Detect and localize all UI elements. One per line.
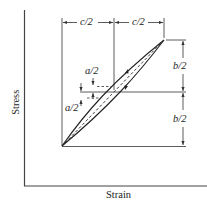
label-a-half-upper: a/2 bbox=[85, 66, 98, 77]
y-axis-label: Stress bbox=[11, 87, 22, 117]
label-b-half-top: b/2 bbox=[173, 61, 186, 72]
x-axis-label: Strain bbox=[106, 190, 131, 201]
hysteresis-loop bbox=[62, 40, 164, 146]
label-b-half-bottom: b/2 bbox=[173, 114, 186, 125]
label-c-half-left: c/2 bbox=[80, 17, 93, 28]
axes bbox=[24, 10, 207, 186]
label-c-half-right: c/2 bbox=[132, 17, 145, 28]
label-a-half-lower: a/2 bbox=[65, 103, 78, 114]
hysteresis-diagram bbox=[0, 0, 207, 211]
